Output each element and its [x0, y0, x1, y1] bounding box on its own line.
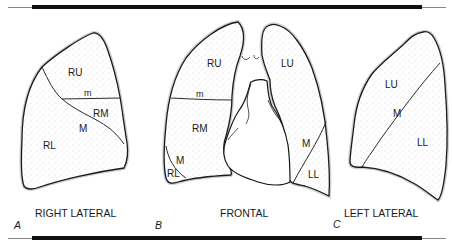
label-m-right-frontal: M [176, 155, 184, 166]
label-lu-left-lateral: LU [385, 79, 398, 90]
label-rm-frontal: RM [192, 123, 208, 134]
label-m-small-frontal: m [196, 89, 204, 99]
label-ll-left-lateral: LL [417, 137, 429, 148]
bottom-rule [8, 236, 446, 240]
panel-left-lateral: LU M LL LEFT LATERAL C [333, 32, 447, 230]
label-ll-frontal: LL [308, 169, 320, 180]
label-rl-frontal: RL [167, 168, 180, 179]
label-lu-frontal: LU [281, 58, 294, 69]
label-m-left-lateral: M [393, 108, 401, 119]
view-title-left-lateral: LEFT LATERAL [344, 207, 418, 219]
panel-letter-a: A [13, 219, 21, 231]
label-rl: RL [43, 140, 56, 151]
label-ru: RU [68, 67, 82, 78]
panel-right-lateral: RU m RM M RL RIGHT LATERAL A [13, 33, 128, 231]
label-m-small: m [84, 88, 92, 98]
view-title-right-lateral: RIGHT LATERAL [35, 207, 116, 219]
right-bronchus-hook [254, 55, 259, 59]
label-m-left-frontal: M [302, 138, 310, 149]
label-ru-frontal: RU [207, 58, 221, 69]
label-m: M [79, 123, 87, 134]
panel-letter-b: B [155, 219, 162, 231]
view-title-frontal: FRONTAL [220, 207, 268, 219]
panel-frontal: RU m RM M RL LU M LL FRONTAL B [155, 22, 329, 231]
label-rm: RM [93, 108, 109, 119]
lung-lobes-figure: RU m RM M RL RIGHT LATERAL A RU m RM M R… [0, 0, 452, 243]
left-bronchus-hook [242, 56, 250, 60]
top-rule [8, 5, 446, 9]
panel-letter-c: C [333, 218, 341, 230]
